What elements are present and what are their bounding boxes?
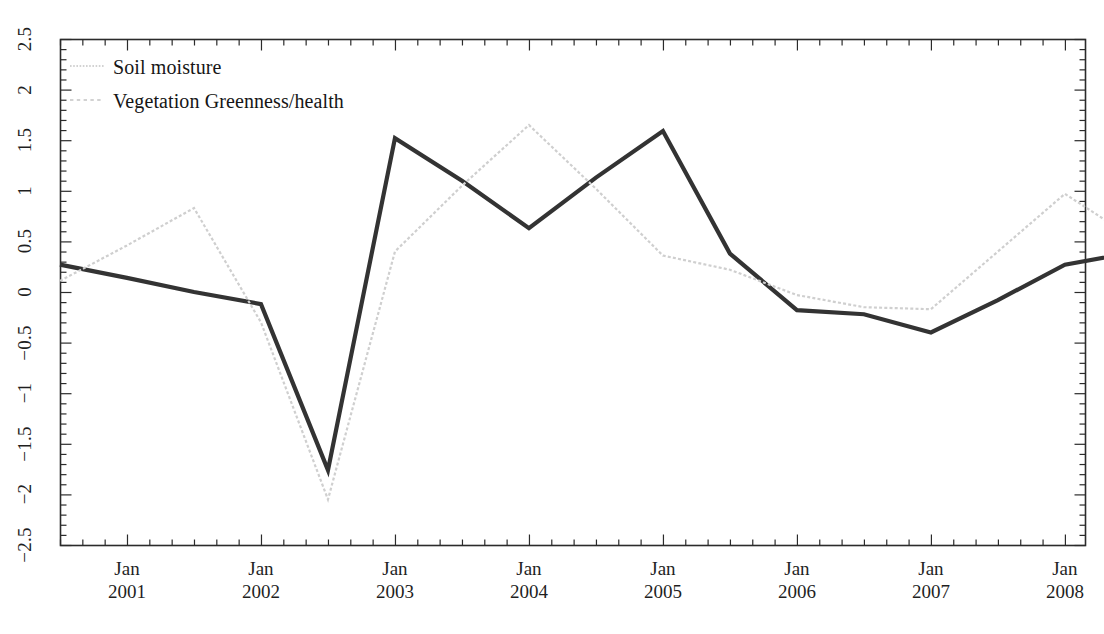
plot-frame: [61, 40, 1086, 546]
x-tick-month: Jan: [221, 557, 301, 580]
y-tick-label: 0.5: [14, 216, 36, 266]
y-tick-label: −1: [14, 368, 36, 418]
series-line-soil-moisture: [60, 131, 1104, 470]
x-tick-year: 2002: [221, 580, 301, 603]
y-axis-ticks: [61, 40, 1086, 546]
data-series-layer: [60, 118, 1104, 500]
x-tick-label: Jan2002: [221, 557, 301, 603]
x-tick-year: 2007: [891, 580, 971, 603]
x-tick-month: Jan: [623, 557, 703, 580]
x-tick-label: Jan2004: [489, 557, 569, 603]
y-tick-label: −2: [14, 469, 36, 519]
x-tick-year: 2006: [757, 580, 837, 603]
y-tick-label: 2: [14, 65, 36, 115]
y-tick-label: 1.5: [14, 115, 36, 165]
x-tick-label: Jan2005: [623, 557, 703, 603]
x-tick-label: Jan2007: [891, 557, 971, 603]
x-axis-ticks: [61, 40, 1066, 546]
y-tick-label: −0.5: [14, 318, 36, 368]
x-tick-year: 2004: [489, 580, 569, 603]
x-tick-year: 2003: [355, 580, 435, 603]
x-tick-month: Jan: [489, 557, 569, 580]
x-tick-month: Jan: [1025, 557, 1104, 580]
x-tick-month: Jan: [355, 557, 435, 580]
x-tick-year: 2008: [1025, 580, 1104, 603]
legend-label-soil-moisture: Soil moisture: [113, 56, 222, 79]
y-tick-label: 0: [14, 267, 36, 317]
x-tick-month: Jan: [891, 557, 971, 580]
series-line-vegetation-greenness: [60, 118, 1104, 500]
x-tick-label: Jan2001: [87, 557, 167, 603]
y-tick-label: −2.5: [14, 520, 36, 570]
x-tick-label: Jan2006: [757, 557, 837, 603]
legend-label-vegetation-greenness: Vegetation Greenness/health: [113, 90, 344, 113]
x-tick-label: Jan2003: [355, 557, 435, 603]
x-tick-year: 2001: [87, 580, 167, 603]
y-tick-label: −1.5: [14, 419, 36, 469]
chart-figure: 2.521.510.50−0.5−1−1.5−2−2.5 Jan2001Jan2…: [0, 0, 1104, 634]
y-tick-label: 1: [14, 166, 36, 216]
x-tick-year: 2005: [623, 580, 703, 603]
y-tick-label: 2.5: [14, 14, 36, 64]
x-tick-label: Jan2008: [1025, 557, 1104, 603]
x-tick-month: Jan: [87, 557, 167, 580]
x-tick-month: Jan: [757, 557, 837, 580]
